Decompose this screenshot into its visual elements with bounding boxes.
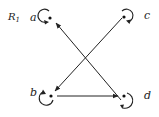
node-b-dot	[49, 94, 52, 97]
relation-digraph: R1 a c b d	[0, 0, 159, 117]
node-b-label: b	[30, 86, 37, 99]
node-c-dot	[122, 15, 125, 18]
node-d-label: d	[144, 89, 151, 102]
node-a-label: a	[30, 11, 37, 24]
loop-arrowhead-a	[44, 20, 49, 25]
edge-c-to-b	[55, 18, 122, 91]
node-a-dot	[48, 16, 51, 19]
loop-arrowhead-b	[41, 90, 46, 95]
node-a: a	[30, 9, 52, 24]
node-c: c	[122, 9, 150, 24]
node-c-label: c	[144, 9, 150, 22]
node-d: d	[120, 89, 151, 109]
node-d-dot	[122, 94, 125, 97]
edge-d-to-a	[56, 23, 121, 100]
node-b: b	[30, 86, 53, 105]
relation-label: R1	[7, 11, 20, 24]
self-loop-a-icon	[38, 9, 49, 22]
loop-arrowhead-c	[126, 20, 131, 25]
